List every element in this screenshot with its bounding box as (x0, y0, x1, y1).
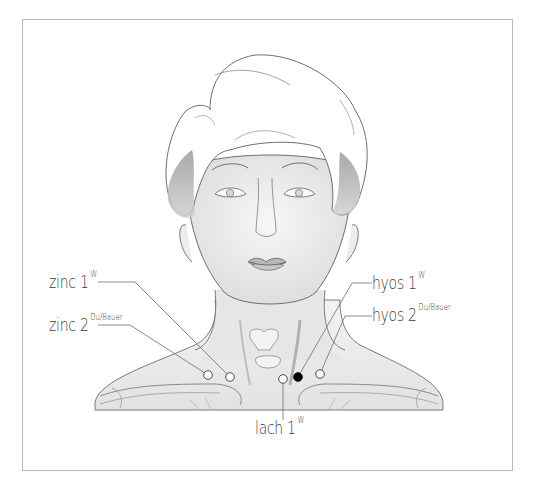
label-zinc2-superscript: Du/Bauer (90, 312, 123, 322)
label-hyos2-superscript: Du/Bauer (418, 302, 451, 312)
label-zinc2-name: zinc 2 (49, 315, 89, 335)
point-marker-lach1[interactable] (279, 375, 288, 384)
label-lach1: lach 1W (255, 420, 304, 437)
point-marker-zinc1[interactable] (226, 373, 235, 382)
point-marker-hyos1[interactable] (294, 373, 303, 382)
point-marker-zinc2[interactable] (204, 371, 213, 380)
label-hyos1: hyos 1W (372, 275, 425, 292)
label-hyos2: hyos 2Du/Bauer (372, 307, 451, 324)
label-zinc2: zinc 2Du/Bauer (49, 317, 123, 334)
label-lach1-name: lach 1 (255, 418, 296, 438)
label-hyos1-superscript: W (418, 270, 425, 280)
point-marker-hyos2[interactable] (316, 370, 325, 379)
label-hyos1-name: hyos 1 (372, 273, 417, 293)
label-hyos2-name: hyos 2 (372, 305, 417, 325)
figure-illustration (0, 0, 545, 489)
label-zinc1: zinc 1W (49, 274, 97, 291)
label-lach1-superscript: W (297, 415, 304, 425)
label-zinc1-name: zinc 1 (49, 272, 89, 292)
label-zinc1-superscript: W (90, 269, 97, 279)
